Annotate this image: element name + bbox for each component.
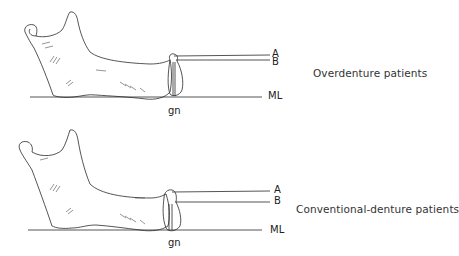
label-gn: gn [168, 106, 181, 116]
label-b: B [274, 196, 281, 206]
mandible-outline [25, 12, 172, 99]
label-ml: ML [268, 91, 282, 101]
line-a [174, 55, 270, 56]
label-a: A [274, 185, 281, 195]
panel-overdenture-figure [25, 12, 270, 99]
caption-conventional: Conventional-denture patients [296, 203, 459, 215]
line-a [172, 191, 270, 192]
panel-conventional-figure [19, 130, 270, 231]
label-ml: ML [270, 225, 284, 235]
mandible-outline [19, 130, 169, 231]
label-gn: gn [168, 238, 181, 248]
label-b: B [272, 57, 279, 67]
caption-overdenture: Overdenture patients [313, 67, 427, 79]
